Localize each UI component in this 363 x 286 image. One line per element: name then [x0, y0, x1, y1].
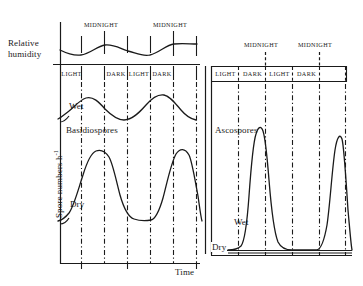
left-midnight-label-2: MIDNIGHT: [153, 21, 187, 28]
right-panel-axes: [211, 66, 352, 256]
x-axis-label: Time: [175, 267, 194, 277]
left-band-label-1: DARK: [105, 70, 127, 77]
left-dry-label: Dry: [70, 199, 84, 209]
left-panel-axes: [53, 22, 200, 264]
right-band-label-0: LIGHT: [213, 70, 238, 77]
right-band-label-3: DARK: [294, 70, 319, 77]
panel-break: [206, 66, 212, 254]
relative-humidity-curve: [60, 44, 197, 56]
right-band-label-2: LIGHT: [267, 70, 292, 77]
right-top-ticks: [266, 52, 320, 66]
right-band-label-1: DARK: [240, 70, 265, 77]
right-dry-label: Dry: [211, 242, 227, 252]
relative-humidity-label: Relative humidity: [8, 38, 41, 60]
left-dashdot-dividers: [82, 82, 197, 263]
right-wet-label: Wet: [234, 217, 249, 227]
left-midnight-label-1: MIDNIGHT: [84, 21, 118, 28]
right-panel-title: Ascospores: [215, 125, 258, 135]
right-wet-curve: [228, 127, 352, 250]
right-midnight-label-1: MIDNIGHT: [244, 41, 278, 48]
dry-leader: [60, 218, 69, 224]
left-band-label-2: LIGHT: [128, 70, 150, 77]
left-panel-title: Basidiospores: [66, 125, 118, 135]
relative-humidity-line2: humidity: [8, 49, 41, 60]
y-axis-label: Spore numbers h-1: [52, 150, 64, 218]
left-band-label-3: DARK: [151, 70, 173, 77]
y-axis-label-text: Spore numbers h: [54, 156, 64, 219]
right-midnight-label-2: MIDNIGHT: [298, 41, 332, 48]
left-band-label-0: LIGHT: [61, 70, 82, 77]
left-wet-label: Wet: [69, 101, 84, 111]
left-dry-curve: [58, 150, 202, 221]
relative-humidity-line1: Relative: [8, 38, 41, 49]
right-dashdot-dividers: [239, 84, 346, 255]
y-axis-label-exponent: -1: [52, 150, 59, 156]
spore-release-figure: Relative humidity Spore numbers h-1 Time…: [0, 0, 363, 286]
